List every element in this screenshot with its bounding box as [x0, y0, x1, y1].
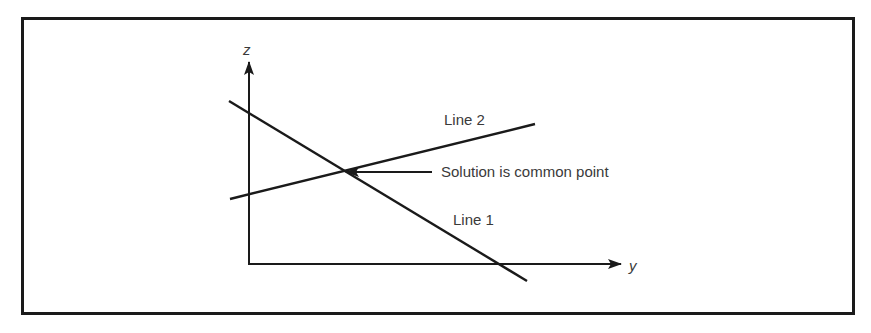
- line-1: [229, 101, 527, 281]
- z-axis-label: z: [243, 42, 251, 57]
- line-1-label: Line 1: [453, 212, 494, 227]
- y-axis-label: y: [629, 258, 637, 273]
- annotation-text: Solution is common point: [441, 164, 609, 179]
- line-2-label: Line 2: [444, 112, 485, 127]
- line-2: [230, 124, 535, 199]
- diagram-canvas: [0, 0, 871, 333]
